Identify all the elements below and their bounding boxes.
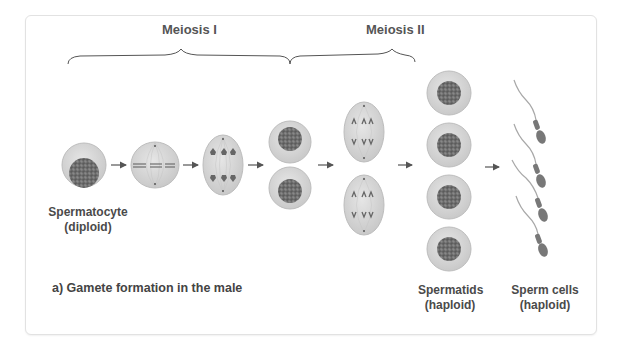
anaphase-1-cell bbox=[203, 135, 243, 195]
meiosis-1-title: Meiosis I bbox=[162, 22, 217, 37]
meiosis-2-brace bbox=[290, 49, 415, 64]
spermatocyte-label: Spermatocyte (diploid) bbox=[48, 205, 128, 235]
sperm-cells bbox=[512, 80, 538, 234]
sperm-cells-label: Sperm cells (haploid) bbox=[510, 283, 580, 313]
spermatid-cells bbox=[427, 71, 471, 271]
meiosis-1-brace bbox=[68, 49, 290, 64]
meiosis-2-cell-bottom bbox=[344, 175, 384, 235]
figure-caption: a) Gamete formation in the male bbox=[52, 281, 242, 295]
sperm-heads bbox=[532, 119, 549, 258]
meiosis-2-cell-top bbox=[344, 102, 384, 162]
spermatocyte-cell bbox=[62, 143, 106, 188]
daughter-cells-pair bbox=[269, 121, 311, 209]
meiosis-2-title: Meiosis II bbox=[366, 22, 425, 37]
spermatids-label: Spermatids (haploid) bbox=[418, 283, 482, 313]
metaphase-1-cell bbox=[131, 142, 179, 188]
